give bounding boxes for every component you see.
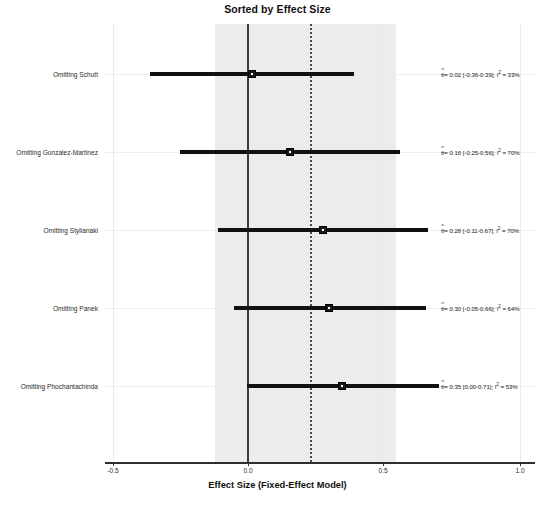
row-annotation-2: ^θ= 0.28 [-0.11-0.67]; I2 = 70%	[441, 226, 519, 234]
x-tick-label-2: 0.5	[378, 467, 387, 474]
pooled-ci-band	[215, 24, 396, 462]
y-axis-label-row-1: Omitting Gonzalez-Martinez	[0, 149, 98, 156]
row-annotation-4: ^θ= 0.35 [0.00-0.71]; I2 = 53%	[441, 382, 518, 390]
forest-plot: Sorted by Effect Size	[0, 0, 555, 510]
annotation-text: = 0.35 [0.00-0.71]; I	[444, 383, 496, 390]
point-center-dot	[251, 73, 253, 75]
theta-hat-symbol: ^θ	[441, 305, 444, 312]
y-axis-label-row-2: Omitting Stylianaki	[0, 227, 98, 234]
theta-hat-symbol: ^θ	[441, 383, 444, 390]
row-annotation-0: ^θ= 0.02 [-0.36-0.39]; I2 = 33%	[441, 70, 520, 78]
x-axis-tick	[520, 462, 521, 466]
chart-title: Sorted by Effect Size	[0, 3, 555, 15]
i2-value: 53%	[506, 383, 518, 390]
point-center-dot	[289, 151, 291, 153]
point-center-dot	[322, 229, 324, 231]
annotation-text: = 0.30 [-0.05-0.66]; I	[444, 305, 498, 312]
zero-reference-line	[247, 24, 249, 462]
theta-hat-symbol: ^θ	[441, 149, 444, 156]
row-annotation-3: ^θ= 0.30 [-0.05-0.66]; I2 = 64%	[441, 304, 520, 312]
pooled-estimate-line	[310, 24, 312, 462]
i2-equals: =	[501, 71, 508, 78]
annotation-text: = 0.02 [-0.36-0.39]; I	[444, 71, 498, 78]
gridline-vertical	[113, 24, 114, 462]
i2-equals: =	[499, 383, 506, 390]
row-annotation-1: ^θ= 0.16 [-0.25-0.56]; I2 = 70%	[441, 148, 520, 156]
i2-value: 33%	[508, 71, 520, 78]
annotation-text: = 0.16 [-0.25-0.56]; I	[444, 149, 498, 156]
annotation-text: = 0.28 [-0.11-0.67]; I	[444, 227, 498, 234]
gridline-vertical	[520, 24, 521, 462]
x-tick-label-1: 0.0	[243, 467, 252, 474]
x-axis-tick	[113, 462, 114, 466]
y-axis-label-row-0: Omitting Schutt	[0, 71, 98, 78]
point-center-dot	[328, 307, 330, 309]
theta-hat-symbol: ^θ	[441, 227, 444, 234]
x-axis-tick	[383, 462, 384, 466]
i2-equals: =	[501, 305, 508, 312]
i2-value: 70%	[508, 149, 520, 156]
point-center-dot	[341, 385, 343, 387]
x-tick-label-3: 1.0	[515, 467, 524, 474]
plot-panel	[105, 24, 535, 462]
gridline-vertical	[383, 24, 384, 462]
x-axis-tick	[248, 462, 249, 466]
i2-equals: =	[501, 149, 508, 156]
i2-value: 64%	[508, 305, 520, 312]
y-axis-label-row-4: Omitting Phochantachinda	[0, 383, 98, 390]
y-axis-label-row-3: Omitting Panek	[0, 305, 98, 312]
theta-hat-symbol: ^θ	[441, 71, 444, 78]
x-axis-line	[105, 462, 535, 464]
x-tick-label-0: -0.5	[107, 467, 118, 474]
i2-value: 70%	[507, 227, 519, 234]
x-axis-title: Effect Size (Fixed-Effect Model)	[0, 480, 555, 490]
